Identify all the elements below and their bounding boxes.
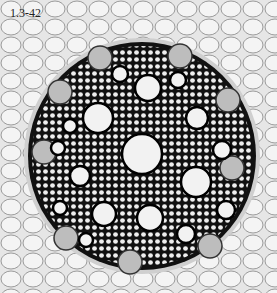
figure-label: 1.3-42 [10, 6, 41, 21]
phloem-strand [198, 234, 222, 258]
phloem-strand [88, 46, 112, 70]
xylem-vessel [181, 167, 211, 197]
xylem-vessel [217, 201, 235, 219]
xylem-vessel [79, 233, 93, 247]
root-cross-section-image [0, 0, 277, 293]
xylem-vessel [83, 103, 113, 133]
phloem-strand [54, 226, 78, 250]
xylem-vessel [137, 205, 163, 231]
xylem-vessel [170, 72, 186, 88]
phloem-strand [48, 80, 72, 104]
xylem-vessel [53, 201, 67, 215]
xylem-vessel [92, 202, 116, 226]
phloem-strand [216, 88, 240, 112]
xylem-vessel [177, 225, 195, 243]
xylem-vessel [186, 107, 208, 129]
xylem-vessel [51, 141, 65, 155]
xylem-vessel [112, 66, 128, 82]
xylem-vessel [122, 134, 162, 174]
xylem-vessel [213, 141, 231, 159]
xylem-vessel [63, 119, 77, 133]
micrograph: 1.3-42 [0, 0, 277, 293]
xylem-vessel [135, 75, 161, 101]
xylem-vessel [70, 166, 90, 186]
phloem-strand [168, 44, 192, 68]
phloem-strand [118, 250, 142, 274]
